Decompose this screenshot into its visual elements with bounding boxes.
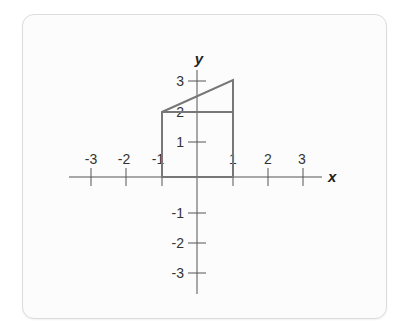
x-tick-label: -2	[118, 151, 131, 167]
y-tick-label: 3	[176, 73, 184, 89]
coordinate-plane: -3 -2 -1 1 2 3 3 2 1 -1 -2 -3 x y	[0, 0, 405, 335]
x-axis-label: x	[327, 168, 337, 185]
y-tick-label: -3	[172, 265, 185, 281]
x-tick-label: 2	[264, 151, 272, 167]
y-tick-label: 1	[176, 134, 184, 150]
x-tick-label: -3	[85, 151, 98, 167]
y-axis-label: y	[194, 50, 204, 67]
y-tick-label: -2	[172, 235, 185, 251]
y-tick-label: -1	[172, 205, 185, 221]
x-tick-label: 3	[298, 151, 306, 167]
